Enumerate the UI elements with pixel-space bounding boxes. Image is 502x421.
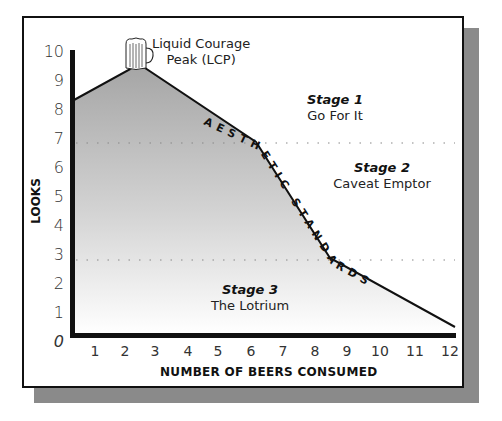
x-tick: 1 bbox=[83, 343, 107, 359]
stage-2-annotation: Stage 2 Caveat Emptor bbox=[322, 160, 442, 192]
x-tick: 8 bbox=[303, 343, 327, 359]
y-tick: 0 bbox=[38, 332, 64, 351]
stage-1-subtitle: Go For It bbox=[307, 108, 363, 123]
lcp-line1: Liquid Courage bbox=[152, 36, 250, 52]
y-axis-label: LOOKS bbox=[29, 171, 43, 231]
stage-3-annotation: Stage 3 The Lotrium bbox=[195, 282, 305, 314]
x-tick: 2 bbox=[113, 343, 137, 359]
x-tick: 5 bbox=[206, 343, 230, 359]
y-tick: 7 bbox=[38, 129, 64, 148]
x-tick: 6 bbox=[239, 343, 263, 359]
stage-3-title: Stage 3 bbox=[195, 282, 305, 298]
y-tick: 3 bbox=[38, 245, 64, 264]
beer-mug-icon bbox=[126, 38, 153, 70]
stage-3-subtitle: The Lotrium bbox=[211, 298, 289, 313]
stage-2-title: Stage 2 bbox=[322, 160, 442, 176]
x-tick: 3 bbox=[143, 343, 167, 359]
x-axis-label: NUMBER OF BEERS CONSUMED bbox=[160, 365, 377, 379]
x-tick: 11 bbox=[403, 343, 427, 359]
y-tick: 9 bbox=[38, 71, 64, 90]
x-tick: 9 bbox=[335, 343, 359, 359]
x-axis bbox=[70, 333, 456, 338]
x-tick: 12 bbox=[438, 343, 462, 359]
y-tick: 1 bbox=[38, 303, 64, 322]
y-axis bbox=[70, 50, 75, 338]
lcp-line2: Peak (LCP) bbox=[152, 52, 250, 68]
stage-1-annotation: Stage 1 Go For It bbox=[285, 92, 385, 124]
x-tick: 7 bbox=[271, 343, 295, 359]
stage-2-subtitle: Caveat Emptor bbox=[333, 176, 430, 191]
y-tick: 10 bbox=[38, 42, 64, 61]
stage-1-title: Stage 1 bbox=[285, 92, 385, 108]
x-tick: 10 bbox=[368, 343, 392, 359]
y-tick: 2 bbox=[38, 274, 64, 293]
y-tick: 8 bbox=[38, 100, 64, 119]
x-tick: 4 bbox=[176, 343, 200, 359]
lcp-annotation: Liquid Courage Peak (LCP) bbox=[152, 36, 250, 68]
